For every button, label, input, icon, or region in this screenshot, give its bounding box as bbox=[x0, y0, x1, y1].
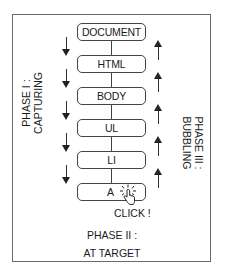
phase-bubbling-title: PHASE III : bbox=[193, 98, 205, 188]
node-html: HTML bbox=[77, 55, 146, 73]
phase-target-label: PHASE II : AT TARGET bbox=[78, 226, 146, 262]
phase-capturing-name: CAPTURING bbox=[32, 58, 44, 148]
arrow-up-icon bbox=[154, 72, 163, 92]
phase-bubbling-label: PHASE III : BUBBLING bbox=[181, 98, 205, 188]
phase-target-name: AT TARGET bbox=[78, 244, 146, 262]
phase-capturing-label: PHASE I : CAPTURING bbox=[20, 58, 44, 148]
arrow-down-icon bbox=[62, 101, 71, 120]
tree-connector bbox=[111, 169, 112, 183]
arrow-up-icon bbox=[154, 136, 163, 156]
node-document: DOCUMENT bbox=[77, 23, 146, 41]
phase-bubbling-name: BUBBLING bbox=[181, 98, 193, 188]
phase-target-title: PHASE II : bbox=[78, 226, 146, 244]
phase-capturing-title: PHASE I : bbox=[20, 58, 32, 148]
click-label: CLICK ! bbox=[114, 207, 151, 219]
arrow-down-icon bbox=[62, 165, 71, 184]
tree-connector bbox=[111, 73, 112, 88]
node-body: BODY bbox=[77, 87, 146, 105]
arrow-up-icon bbox=[154, 104, 163, 124]
pointer-hand-click-icon bbox=[119, 184, 137, 206]
tree-connector bbox=[111, 41, 112, 56]
node-ul: UL bbox=[77, 119, 146, 137]
arrow-up-icon bbox=[154, 168, 163, 188]
arrow-down-icon bbox=[62, 133, 71, 152]
arrow-down-icon bbox=[62, 69, 71, 88]
arrow-down-icon bbox=[62, 37, 71, 56]
node-li: LI bbox=[77, 151, 146, 169]
node-a-label: A bbox=[107, 184, 114, 200]
tree-connector bbox=[111, 105, 112, 120]
arrow-up-icon bbox=[154, 40, 163, 60]
tree-connector bbox=[111, 137, 112, 152]
